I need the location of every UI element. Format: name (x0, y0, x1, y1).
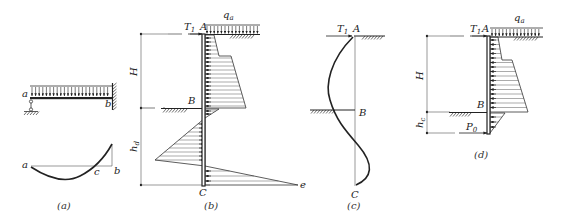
hatch-line (163, 109, 166, 113)
label-B: B (187, 95, 195, 106)
panel-a: a b a c b (a) (22, 83, 120, 211)
hatch-line (33, 112, 36, 116)
caption-a: (a) (57, 200, 71, 211)
hatch-line (36, 112, 39, 116)
label-B: B (476, 99, 484, 110)
hatch-line (329, 110, 332, 114)
hatch-line (251, 35, 254, 39)
pressure-below-excavation (490, 113, 505, 133)
active-pressure-diagram (490, 37, 528, 112)
moment-diagram-a: a c b (22, 144, 120, 179)
hatch-line (236, 35, 239, 39)
label-C: C (351, 189, 359, 200)
label-H: H (128, 67, 139, 77)
label-qa: qa (223, 9, 234, 22)
passive-pressure-front (155, 118, 205, 166)
hatch-line (113, 86, 117, 89)
caption-d: (d) (474, 149, 488, 160)
hatch-line (529, 37, 532, 41)
label-beam-b: b (105, 98, 111, 109)
label-beam-a: a (22, 88, 28, 99)
label-A: A (199, 21, 207, 32)
hatch-line (459, 113, 462, 117)
label-e: e (300, 179, 306, 190)
hatch-line (314, 110, 317, 114)
label-a: a (22, 159, 28, 170)
hatch-line (113, 107, 117, 110)
uniform-load-arrows (32, 87, 108, 96)
fixed-support-hatch (113, 83, 117, 110)
label-qa: qa (514, 12, 525, 25)
beam-a: a b (22, 83, 117, 115)
pressure-arrows (490, 40, 527, 127)
hatch-line (113, 101, 117, 104)
pin-support-a (24, 100, 39, 115)
label-b: b (114, 165, 120, 176)
hatch-line (113, 83, 117, 86)
panel-b: T1 A qa B C e H hd (b) (128, 9, 306, 211)
hatch-line (245, 35, 248, 39)
hatch-line (520, 37, 523, 41)
excavation-hatch (311, 110, 335, 114)
hatch-line (233, 35, 236, 39)
pressure-arrows (155, 38, 278, 181)
panel-d: T1 A qa B P0 H hc (d) (414, 12, 543, 160)
label-hd: hd (128, 141, 141, 152)
label-B: B (358, 107, 366, 118)
hatch-line (380, 36, 383, 40)
hatch-line (450, 113, 453, 117)
hatch-line (371, 36, 374, 40)
hatch-line (365, 36, 368, 40)
label-P0: P0 (465, 121, 478, 134)
hatch-line (172, 109, 175, 113)
beam-ab (30, 97, 112, 99)
hatch-line (113, 95, 117, 98)
label-A: A (481, 23, 489, 34)
caption-b: (b) (204, 200, 218, 211)
hatch-line (468, 113, 471, 117)
pressure-below-excavation (205, 109, 219, 118)
hatch-line (526, 37, 529, 41)
hatch-line (362, 36, 365, 40)
hatch-line (239, 35, 242, 39)
label-c: c (94, 166, 100, 177)
hatch-line (113, 92, 117, 95)
label-T1: T1 (184, 21, 195, 34)
hatch-line (113, 104, 117, 107)
surcharge-arrows (492, 29, 539, 36)
hatch-line (24, 112, 27, 116)
hatch-line (311, 110, 314, 114)
hatch-line (523, 37, 526, 41)
hatch-line (374, 36, 377, 40)
ground-hatch-right (230, 35, 254, 39)
hatch-line (181, 109, 184, 113)
label-T1: T1 (337, 23, 348, 36)
ground-hatch (362, 36, 383, 40)
hatch-line (230, 35, 233, 39)
passive-pressure-back (205, 166, 298, 185)
excavation-hatch (450, 113, 471, 117)
hatch-line (323, 110, 326, 114)
hatch-line (462, 113, 465, 117)
label-A: A (352, 23, 360, 34)
excavation-hatch (163, 109, 187, 113)
hatch-line (517, 37, 520, 41)
hatch-line (320, 110, 323, 114)
hatch-line (456, 113, 459, 117)
hatch-line (27, 112, 30, 116)
hatch-line (169, 109, 172, 113)
label-H: H (414, 71, 425, 81)
hatch-line (317, 110, 320, 114)
hatch-line (368, 36, 371, 40)
caption-c: (c) (347, 200, 361, 211)
hatch-line (113, 89, 117, 92)
hatch-line (326, 110, 329, 114)
figure-canvas: a b a c b (a) T1 A qa (0, 0, 563, 224)
hatch-line (514, 37, 517, 41)
hatch-line (242, 35, 245, 39)
hatch-line (377, 36, 380, 40)
hatch-line (184, 109, 187, 113)
sheet-pile-wall (202, 34, 205, 186)
label-hc: hc (414, 118, 427, 128)
hatch-line (113, 98, 117, 101)
